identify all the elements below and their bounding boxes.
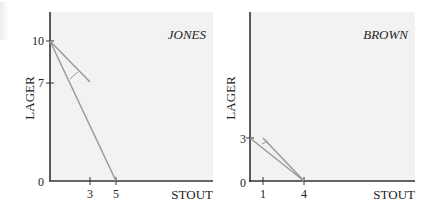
- brown-y-axis-title: LAGER: [223, 76, 238, 120]
- brown-y-label-0: 0: [240, 176, 246, 190]
- brown-chart: 3 0 1 4 STOUT LAGER BROWN: [223, 12, 415, 202]
- jones-y-label-0: 0: [38, 175, 44, 189]
- jones-chart: 10 7 0 3 5 STOUT LAGER JONES: [22, 12, 213, 202]
- brown-x-label-1: 1: [260, 187, 266, 201]
- jones-x-label-3: 3: [87, 187, 93, 201]
- brown-x-axis-title: STOUT: [373, 187, 415, 202]
- brown-chart-title: BROWN: [363, 27, 409, 42]
- charts-canvas: 10 7 0 3 5 STOUT LAGER JONES 3 0 1 4 STO…: [0, 0, 432, 212]
- jones-x-label-5: 5: [113, 187, 119, 201]
- jones-y-label-7: 7: [38, 76, 44, 90]
- jones-chart-title: JONES: [168, 27, 207, 42]
- brown-y-label-3: 3: [240, 132, 246, 146]
- brown-x-label-4: 4: [301, 187, 307, 201]
- jones-x-axis-title: STOUT: [171, 187, 213, 202]
- jones-y-label-10: 10: [32, 34, 44, 48]
- jones-y-axis-title: LAGER: [22, 76, 37, 120]
